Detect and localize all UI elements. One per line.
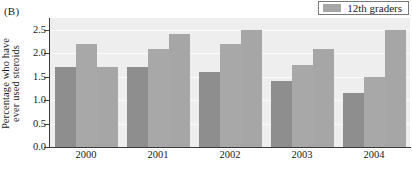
bar-group-2000 bbox=[55, 18, 118, 147]
y-axis-spine bbox=[49, 18, 50, 148]
x-tick-label: 2002 bbox=[220, 150, 241, 161]
x-axis-tick-labels: 20002001200220032004 bbox=[50, 150, 410, 168]
bar-group-2001 bbox=[127, 18, 190, 147]
legend-label-12th-graders: 12th graders bbox=[347, 3, 402, 14]
bar bbox=[313, 49, 334, 148]
bar bbox=[364, 77, 385, 147]
legend-swatch-12th-graders bbox=[323, 4, 341, 12]
bar bbox=[241, 30, 262, 147]
bars-layer bbox=[50, 18, 410, 147]
bar bbox=[385, 30, 406, 147]
bar bbox=[97, 67, 118, 147]
bar bbox=[220, 44, 241, 147]
bar-group-2002 bbox=[199, 18, 262, 147]
x-tick-label: 2003 bbox=[292, 150, 313, 161]
bar bbox=[127, 67, 148, 147]
bar bbox=[55, 67, 76, 147]
bar-group-2003 bbox=[271, 18, 334, 147]
x-tick-label: 2000 bbox=[76, 150, 97, 161]
x-axis-spine bbox=[49, 147, 411, 148]
x-tick-label: 2004 bbox=[364, 150, 385, 161]
bar bbox=[271, 81, 292, 147]
y-axis-title-line-2: ever used steroids bbox=[11, 45, 22, 122]
chart-legend: 12th graders bbox=[318, 1, 409, 15]
bar-group-2004 bbox=[343, 18, 406, 147]
x-tick-label: 2001 bbox=[148, 150, 169, 161]
bar bbox=[76, 44, 97, 147]
bar bbox=[169, 34, 190, 147]
y-axis-title: Percentage who have ever used steroids bbox=[0, 18, 22, 150]
panel-label: (B) bbox=[4, 6, 19, 17]
bar bbox=[343, 93, 364, 147]
bar bbox=[199, 72, 220, 147]
bar bbox=[148, 49, 169, 148]
plot-area bbox=[50, 18, 410, 147]
bar bbox=[292, 65, 313, 147]
